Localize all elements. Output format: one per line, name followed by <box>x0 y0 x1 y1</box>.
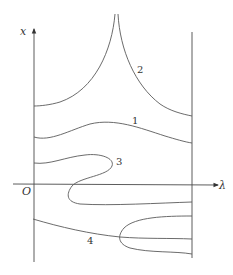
diagram-canvas: x λ O 2 1 3 4 <box>0 0 233 275</box>
curve-1-label: 1 <box>132 115 138 126</box>
curve-3-label: 3 <box>116 156 122 167</box>
curve-2-right-branch <box>118 14 192 116</box>
lambda-axis-label: λ <box>218 179 226 192</box>
curve-2-left-branch <box>34 14 115 106</box>
origin-label: O <box>22 185 31 198</box>
x-axis-label: x <box>20 25 27 38</box>
curve-4-label: 4 <box>87 235 93 246</box>
curve-4-loop <box>120 216 192 254</box>
curve-4-main-line <box>33 219 192 239</box>
curve-2-label: 2 <box>137 64 143 75</box>
lambda-axis <box>13 184 218 185</box>
curve-1 <box>34 122 192 143</box>
curve-3 <box>34 155 192 205</box>
